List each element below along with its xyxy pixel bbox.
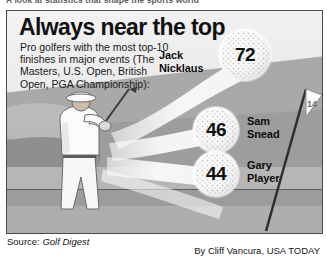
player-last-name-player: Player <box>247 172 279 185</box>
credit-line: By Cliff Vancura, USA TODAY <box>194 245 320 256</box>
player-last-name-snead: Snead <box>247 128 280 141</box>
masthead-strip: A look at statistics that shape the spor… <box>6 0 321 6</box>
deck-text: Pro golfers with the most top-10 finishe… <box>20 41 170 90</box>
value-snead: 46 <box>206 119 226 141</box>
player-first-name-snead: Sam <box>247 115 280 128</box>
source-prefix: Source: <box>7 236 42 247</box>
value-nicklaus: 72 <box>235 44 255 66</box>
player-label-snead: Sam Snead <box>247 115 280 140</box>
golf-ball-icon-snead: 46 <box>193 107 239 153</box>
player-last-name-nicklaus: Nicklaus <box>159 62 203 75</box>
value-player: 44 <box>206 163 226 185</box>
player-first-name-nicklaus: Jack <box>159 49 203 62</box>
player-first-name-player: Gary <box>247 159 279 172</box>
masthead-text: A look at statistics that shape the spor… <box>6 0 321 5</box>
golfer-swing-icon <box>33 85 141 217</box>
page-title: Always near the top <box>19 15 225 40</box>
source-name: Golf Digest <box>42 236 89 247</box>
golf-ball-icon-player: 44 <box>193 151 239 197</box>
svg-text:14: 14 <box>307 99 317 109</box>
player-label-player: Gary Player <box>247 159 279 184</box>
golf-ball-icon-nicklaus: 72 <box>219 29 271 81</box>
infographic-root: A look at statistics that shape the spor… <box>0 0 327 259</box>
player-label-nicklaus: Jack Nicklaus <box>159 49 203 74</box>
source-line: Source: Golf Digest <box>7 236 89 247</box>
graphic-frame: 14 Always near the top Pro golfers with … <box>6 10 323 234</box>
golf-flagstick-icon: 14 <box>236 73 322 233</box>
